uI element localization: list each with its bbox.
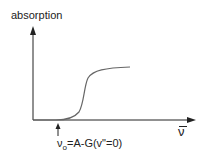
diagram-canvas	[0, 0, 206, 159]
y-axis-arrow-icon	[30, 26, 36, 35]
x-axis-label: ν	[178, 124, 185, 139]
onset-annotation: νo=A-G(v"=0)	[57, 137, 122, 152]
overbar	[179, 126, 187, 127]
onset-arrow-icon	[56, 123, 61, 129]
absorption-curve	[33, 67, 130, 120]
x-axis-arrow-icon	[187, 117, 196, 123]
annotation-formula: =A-G(v"=0)	[67, 137, 122, 149]
y-axis-label: absorption	[11, 9, 62, 21]
